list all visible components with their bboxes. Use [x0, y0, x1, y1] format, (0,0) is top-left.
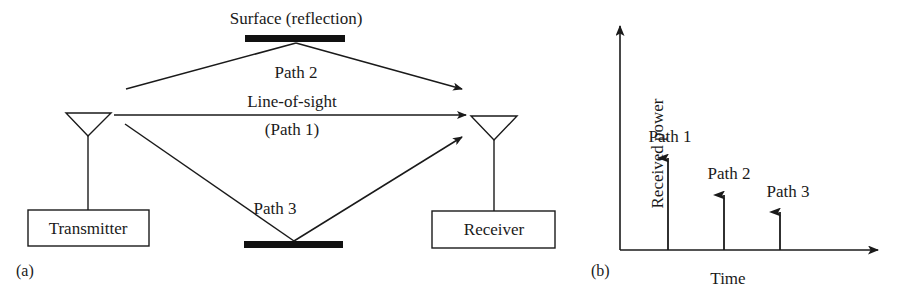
path1-parenthetical-label: (Path 1)	[265, 121, 319, 138]
line-of-sight-label: Line-of-sight	[247, 93, 337, 110]
surface-reflection-label: Surface (reflection)	[230, 10, 363, 27]
panel-b-power-delay-profile: Received power Time Path 1 Path 2 Path 3…	[590, 0, 914, 306]
panel-a-multipath-geometry: Surface (reflection) Path 2 Line-of-sigh…	[0, 0, 590, 306]
path2-label: Path 2	[275, 64, 318, 81]
receiver-label: Receiver	[464, 221, 524, 238]
subfigure-label-a: (a)	[16, 263, 34, 279]
receiver-antenna-icon	[471, 116, 517, 140]
lower-reflector-surface	[244, 241, 343, 248]
path2-incident-ray	[126, 43, 296, 89]
figure-root: Surface (reflection) Path 2 Line-of-sigh…	[0, 0, 914, 306]
path3-label: Path 3	[254, 200, 297, 217]
path3-reflected-ray	[294, 137, 462, 241]
subfigure-label-b: (b)	[591, 263, 610, 279]
panel-a-graphics	[0, 0, 590, 306]
upper-reflector-surface	[245, 35, 345, 42]
path2-reflected-ray	[296, 43, 462, 89]
y-axis-label: Received power	[649, 99, 666, 209]
impulse-label-path-1: Path 1	[649, 128, 692, 145]
panel-b-graphics	[590, 0, 914, 306]
path3-incident-ray	[125, 124, 294, 241]
impulse-label-path-3: Path 3	[767, 183, 810, 200]
impulse-label-path-2: Path 2	[708, 165, 751, 182]
transmitter-label: Transmitter	[49, 220, 128, 237]
transmitter-antenna-icon	[66, 113, 111, 136]
x-axis-label: Time	[710, 270, 745, 287]
